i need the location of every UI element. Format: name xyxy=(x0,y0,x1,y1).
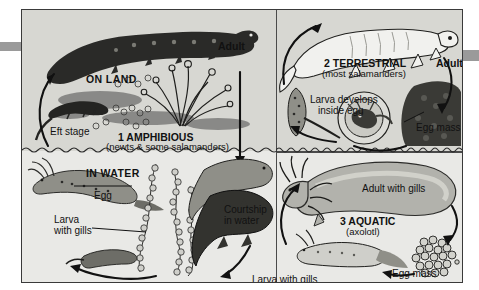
egg-string xyxy=(137,164,197,276)
label-courtship-line2: in water xyxy=(224,215,259,226)
label-adult-terrestrial: Adult xyxy=(436,58,463,70)
larva-with-gills-silhouette xyxy=(28,158,164,211)
figure-root: ON LAND Adult Eft stage 1 AMPHIBIOUS (ne… xyxy=(0,0,479,290)
label-in-water: IN WATER xyxy=(86,168,140,180)
label-eft-stage: Eft stage xyxy=(50,126,89,137)
label-larva-with-gills-line1: Larva xyxy=(54,214,79,225)
arrow-eggmass-to-egg xyxy=(354,146,406,151)
label-larva-develops-line2: inside egg xyxy=(318,105,364,116)
label-adult-with-gills: Adult with gills xyxy=(362,183,425,194)
arrow-adults-to-egg xyxy=(226,246,250,274)
left-edge-tab xyxy=(0,42,22,51)
label-egg: Egg xyxy=(94,190,112,201)
label-amphibious-subtitle: (newts & some salamanders) xyxy=(106,142,229,153)
label-courtship-line1: Courtship xyxy=(224,204,267,215)
arrow-axolotl-to-eggmass xyxy=(450,206,457,240)
label-egg-mass-terrestrial: Egg mass xyxy=(416,122,460,133)
label-larva-with-gills-line2: with gills xyxy=(54,225,92,236)
label-larva-develops-line1: Larva develops xyxy=(310,94,378,105)
label-aquatic-subtitle: (axolotl) xyxy=(346,227,380,238)
label-on-land: ON LAND xyxy=(86,74,137,86)
label-adult-amphibious: Adult xyxy=(218,41,245,53)
label-terrestrial-subtitle: (most salamanders) xyxy=(322,69,406,80)
label-larva-with-gills-aquatic: Larva with gills xyxy=(252,274,318,283)
life-cycle-plate: ON LAND Adult Eft stage 1 AMPHIBIOUS (ne… xyxy=(21,9,463,283)
label-egg-mass-aquatic: Egg mass xyxy=(392,268,436,279)
terrestrial-rock xyxy=(401,81,461,146)
larva-leader-line xyxy=(92,228,146,232)
